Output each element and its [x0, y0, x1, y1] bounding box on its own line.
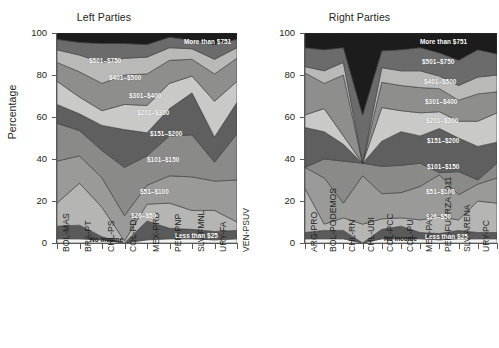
y-axis-tick — [52, 33, 57, 34]
x-axis-tick — [439, 244, 440, 249]
x-axis-tick — [102, 244, 103, 249]
y-axis-tick — [300, 75, 305, 76]
y-axis-tick-label: 0 — [265, 237, 295, 248]
x-axis-tick — [478, 244, 479, 249]
x-axis-tick — [305, 244, 306, 249]
y-axis-tick-label: 20 — [17, 195, 47, 206]
x-axis-tick-label: URY-PC — [481, 220, 491, 252]
x-axis-tick-label: CHL-RN — [347, 220, 357, 252]
y-axis-tick — [52, 117, 57, 118]
y-axis-tick-label: 80 — [17, 69, 47, 80]
x-axis-tick-label: MEX-PAN — [424, 213, 434, 252]
x-axis-tick-label: CHL-UDI — [366, 217, 376, 252]
x-axis-tick-label: BOL-MAS — [61, 213, 71, 252]
x-axis-tick — [382, 244, 383, 249]
y-axis-tick-label: 60 — [265, 111, 295, 122]
x-axis-tick — [80, 244, 81, 249]
x-axis-tick — [497, 244, 498, 249]
y-axis-tick-label: 100 — [17, 27, 47, 38]
panel-left-parties: Left Parties Percentage 020406080100BOL-… — [0, 0, 252, 348]
figure-root: Left Parties Percentage 020406080100BOL-… — [0, 0, 499, 348]
x-axis-tick — [420, 244, 421, 249]
panel-left-title: Left Parties — [0, 11, 230, 23]
x-axis-tick — [215, 244, 216, 249]
x-axis-tick-label: MEX-PRD — [151, 212, 161, 252]
y-axis-line — [56, 33, 57, 244]
x-axis-tick — [401, 244, 402, 249]
y-axis-tick — [300, 159, 305, 160]
y-axis-tick — [300, 201, 305, 202]
x-axis-tick — [57, 244, 58, 249]
x-axis-tick — [343, 244, 344, 249]
x-axis-tick-label: PER-PNP — [173, 214, 183, 252]
y-axis-tick — [52, 159, 57, 160]
x-axis-tick-label: BRA-PT — [83, 220, 93, 252]
x-axis-tick — [459, 244, 460, 249]
x-axis-tick-label: ARG-PRO — [309, 212, 319, 252]
y-axis-line — [304, 33, 305, 244]
x-axis-tick-label: CHL-PS — [106, 220, 116, 252]
x-axis-tick — [363, 244, 364, 249]
stacked-area-svg — [57, 33, 237, 243]
plot-area-left: 020406080100BOL-MASBRA-PTCHL-PSCOL-PDAME… — [57, 33, 237, 243]
x-axis-tick — [170, 244, 171, 249]
x-axis-tick — [237, 244, 238, 249]
y-axis-tick-label: 100 — [265, 27, 295, 38]
x-axis-tick-label: BOL-PODEMOS — [328, 188, 338, 252]
x-axis-tick-label: PER-FUERZA 2011 — [443, 177, 453, 252]
y-axis-tick — [52, 75, 57, 76]
x-axis-tick — [125, 244, 126, 249]
x-axis-tick-label: COL-PU — [405, 220, 415, 252]
y-axis-tick-label: 0 — [17, 237, 47, 248]
y-axis-tick — [300, 33, 305, 34]
x-axis-tick-label: SLV-FMNL — [196, 211, 206, 252]
x-axis-tick-label: SLV-ARENA — [462, 204, 472, 252]
y-axis-tick — [52, 201, 57, 202]
x-axis-tick — [324, 244, 325, 249]
y-axis-tick-label: 20 — [265, 195, 295, 206]
plot-area-right: 020406080100ARG-PROBOL-PODEMOSCHL-RNCHL-… — [305, 33, 497, 243]
area-band — [57, 33, 237, 45]
x-axis-tick-label: COL-PCC — [385, 213, 395, 252]
x-axis-tick-label: VEN-PSUV — [241, 208, 251, 252]
y-axis-tick-label: 60 — [17, 111, 47, 122]
x-axis-tick-label: URY-FA — [218, 221, 228, 252]
y-axis-tick-label: 80 — [265, 69, 295, 80]
panel-right-title: Right Parties — [236, 11, 483, 23]
y-axis-tick-label: 40 — [17, 153, 47, 164]
x-axis-tick — [147, 244, 148, 249]
panel-right-parties: Right Parties 020406080100ARG-PROBOL-POD… — [252, 0, 499, 348]
y-axis-tick — [300, 117, 305, 118]
x-axis-tick — [192, 244, 193, 249]
x-axis-tick-label: COL-PDA — [128, 214, 138, 252]
y-axis-tick-label: 40 — [265, 153, 295, 164]
